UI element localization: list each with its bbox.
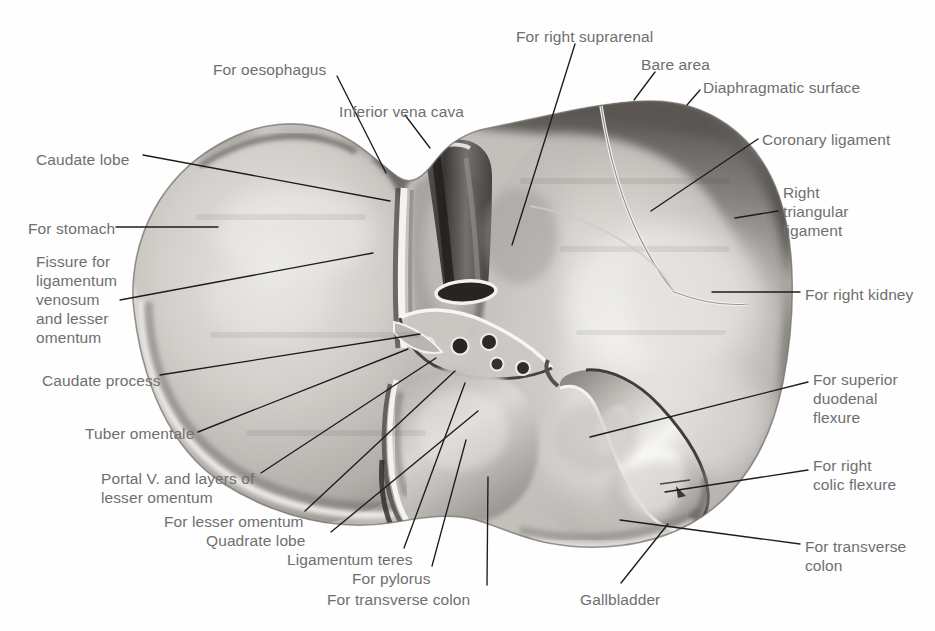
label-for-superior-duodenal-flexure: For superior duodenal flexure (813, 370, 898, 427)
label-quadrate-lobe: Quadrate lobe (206, 531, 306, 550)
anatomical-figure: For oesophagusFor right suprarenalBare a… (0, 0, 935, 631)
label-caudate-lobe: Caudate lobe (36, 150, 129, 169)
label-inferior-vena-cava: Inferior vena cava (339, 102, 464, 121)
label-fissure-ligamentum-venosum: Fissure for ligamentum venosum and lesse… (36, 252, 117, 347)
label-right-triangular-ligament: Right triangular ligament (783, 183, 849, 240)
label-for-right-suprarenal: For right suprarenal (516, 27, 653, 46)
label-bare-area: Bare area (641, 55, 710, 74)
leader-diaphragmatic-surface (687, 90, 700, 105)
label-for-right-kidney: For right kidney (805, 285, 913, 304)
label-diaphragmatic-surface: Diaphragmatic surface (703, 78, 860, 97)
label-ligamentum-teres: Ligamentum teres (287, 550, 413, 569)
leader-bare-area (634, 72, 655, 100)
label-for-right-colic-flexure: For right colic flexure (813, 456, 896, 494)
label-for-transverse-colon-right: For transverse colon (805, 537, 906, 575)
label-for-pylorus: For pylorus (352, 569, 431, 588)
label-for-stomach: For stomach (28, 219, 115, 238)
label-caudate-process: Caudate process (42, 371, 161, 390)
label-for-transverse-colon-bottom: For transverse colon (327, 590, 470, 609)
label-for-lesser-omentum: For lesser omentum (164, 512, 304, 531)
label-coronary-ligament: Coronary ligament (762, 130, 890, 149)
label-gallbladder: Gallbladder (580, 590, 660, 609)
label-for-oesophagus: For oesophagus (213, 60, 326, 79)
label-tuber-omentale: Tuber omentale (85, 424, 194, 443)
label-portal-v-and-layers: Portal V. and layers of lesser omentum (101, 469, 254, 507)
